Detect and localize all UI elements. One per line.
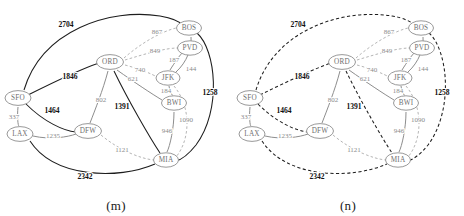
node-BOS-n[interactable]: BOS (409, 21, 434, 35)
node-PVD-m[interactable]: PVD (178, 41, 203, 55)
edge-label-ORD-BOS-m: 867 (152, 28, 163, 36)
svg-text:BOS: BOS (414, 24, 429, 32)
edge-LAX-MIA-m (30, 141, 155, 174)
svg-text:JFK: JFK (162, 74, 175, 82)
edge-label-SFO-ORD-n: 1846 (294, 72, 309, 81)
edge-label-SFO-BOS-m: 2704 (58, 20, 73, 29)
edge-label-JFK-PVD-n: 187 (401, 56, 412, 64)
graph-svg-n: 2704 1846 1464 1391 2342 1258 337 1235 8… (232, 0, 464, 216)
edge-label-SFO-DFW-m: 1464 (44, 106, 59, 115)
graph-svg-m: 2704 1846 1464 1391 2342 1258 337 1235 8… (0, 0, 232, 216)
edge-label-JFK-MIA-n: 1090 (411, 116, 426, 124)
node-JFK-m[interactable]: JFK (156, 71, 180, 85)
edge-label-ORD-DFW-n: 802 (328, 96, 339, 104)
svg-text:SFO: SFO (11, 94, 25, 102)
edge-label-SFO-DFW-n: 1464 (276, 106, 291, 115)
edge-label-LAX-DFW-m: 1235 (46, 132, 61, 140)
edge-label-JFK-BWI-m: 184 (161, 87, 172, 95)
node-group-m: SFO LAX ORD DFW MIA (5, 21, 203, 167)
node-SFO-m[interactable]: SFO (5, 91, 31, 106)
figure-root: 2704 1846 1464 1391 2342 1258 337 1235 8… (0, 0, 464, 216)
panel-caption-n: (n) (232, 198, 464, 214)
node-BOS-m[interactable]: BOS (177, 21, 202, 35)
edge-label-SFO-LAX-m: 337 (9, 113, 20, 121)
svg-text:MIA: MIA (159, 156, 174, 164)
edge-label-SFO-ORD-m: 1846 (62, 72, 77, 81)
edge-label-SFO-LAX-n: 337 (241, 113, 252, 121)
edge-label-JFK-BOS-m: 144 (186, 65, 197, 73)
svg-text:PVD: PVD (415, 44, 430, 52)
svg-text:BWI: BWI (399, 99, 414, 107)
svg-text:ORD: ORD (102, 58, 118, 66)
edge-label-JFK-BWI-n: 184 (393, 87, 404, 95)
edge-label-ORD-DFW-m: 802 (96, 96, 107, 104)
edge-label-DFW-MIA-m: 1121 (115, 146, 129, 154)
edge-label-ORD-PVD-m: 849 (150, 47, 161, 55)
node-group-n: SFO LAX ORD DFW MIA (237, 21, 435, 167)
node-ORD-m[interactable]: ORD (97, 55, 124, 70)
node-DFW-m[interactable]: DFW (75, 124, 102, 139)
edge-label-ORD-MIA-m: 1391 (114, 102, 129, 111)
svg-text:DFW: DFW (312, 127, 329, 135)
edge-label-LAX-MIA-n: 2342 (309, 172, 324, 181)
edge-label-DFW-MIA-n: 1121 (347, 146, 361, 154)
node-DFW-n[interactable]: DFW (307, 124, 334, 139)
edge-label-ORD-BWI-m: 621 (128, 75, 139, 83)
edge-label-SFO-BOS-n: 2704 (290, 20, 305, 29)
node-LAX-m[interactable]: LAX (7, 127, 33, 142)
edge-label-BOS-MIA-m: 1258 (202, 88, 217, 97)
svg-text:DFW: DFW (80, 127, 97, 135)
svg-text:JFK: JFK (394, 74, 407, 82)
edge-label-ORD-JFK-n: 740 (367, 66, 378, 74)
node-JFK-n[interactable]: JFK (388, 71, 412, 85)
node-PVD-n[interactable]: PVD (410, 41, 435, 55)
edge-label-JFK-MIA-m: 1090 (179, 116, 194, 124)
node-LAX-n[interactable]: LAX (239, 127, 265, 142)
edge-ORD-BWI-m (117, 70, 162, 100)
edge-label-BWI-MIA-m: 946 (162, 127, 173, 135)
panel-n: 2704 1846 1464 1391 2342 1258 337 1235 8… (232, 0, 464, 216)
node-SFO-n[interactable]: SFO (237, 91, 263, 106)
edge-label-LAX-DFW-n: 1235 (278, 132, 293, 140)
edge-label-LAX-MIA-m: 2342 (77, 172, 92, 181)
svg-text:MIA: MIA (391, 156, 406, 164)
edge-label-BOS-MIA-n: 1258 (434, 88, 449, 97)
node-MIA-n[interactable]: MIA (386, 153, 411, 167)
edge-label-JFK-PVD-m: 187 (169, 56, 180, 64)
edge-label-ORD-BWI-n: 621 (360, 75, 371, 83)
edge-label-JFK-BOS-n: 144 (418, 65, 429, 73)
edge-ORD-BWI-n (349, 70, 394, 100)
svg-text:LAX: LAX (12, 130, 28, 138)
edge-label-ORD-MIA-n: 1391 (346, 102, 361, 111)
edge-label-ORD-PVD-n: 849 (382, 47, 393, 55)
svg-text:BOS: BOS (182, 24, 197, 32)
node-BWI-n[interactable]: BWI (394, 96, 419, 110)
svg-text:BWI: BWI (167, 99, 182, 107)
svg-text:ORD: ORD (334, 58, 350, 66)
panel-m: 2704 1846 1464 1391 2342 1258 337 1235 8… (0, 0, 232, 216)
svg-text:LAX: LAX (244, 130, 260, 138)
node-MIA-m[interactable]: MIA (154, 153, 179, 167)
panel-caption-m: (m) (0, 198, 232, 214)
svg-text:SFO: SFO (243, 94, 257, 102)
edge-LAX-MIA-n (262, 141, 387, 174)
svg-text:PVD: PVD (183, 44, 198, 52)
node-BWI-m[interactable]: BWI (162, 96, 187, 110)
edge-label-ORD-BOS-n: 867 (384, 28, 395, 36)
edge-label-ORD-JFK-m: 740 (135, 66, 146, 74)
node-ORD-n[interactable]: ORD (329, 55, 356, 70)
edge-label-BWI-MIA-n: 946 (394, 127, 405, 135)
